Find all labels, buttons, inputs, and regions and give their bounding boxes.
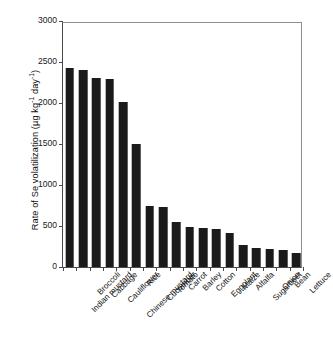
x-axis-label: Rice <box>145 270 163 288</box>
bar <box>159 207 168 267</box>
y-axis-title-prefix: Rate of Se volatilization (µg kg <box>30 103 40 230</box>
y-axis-tick-label: 1500 <box>38 138 57 149</box>
bar <box>279 250 288 267</box>
bar-slot <box>276 23 289 267</box>
bar-slot <box>290 23 303 267</box>
bar <box>65 68 74 267</box>
bar-slot <box>76 23 89 267</box>
x-axis-label: Lettuce <box>308 270 333 295</box>
bar-slot <box>130 23 143 267</box>
bar-slot <box>210 23 223 267</box>
y-axis-title-middle: day <box>30 79 40 97</box>
bar <box>252 248 261 267</box>
bar <box>292 253 301 267</box>
bar <box>185 227 194 267</box>
bar <box>225 233 234 267</box>
bar-slot <box>90 23 103 267</box>
y-axis-title-sup1: -1 <box>28 97 35 103</box>
bar <box>92 78 101 267</box>
bar <box>265 249 274 267</box>
bar-slot <box>116 23 129 267</box>
bar-slot <box>156 23 169 267</box>
bar <box>105 79 114 267</box>
y-axis-title-sup2: -1 <box>28 73 35 79</box>
bar <box>145 206 154 268</box>
bar <box>212 229 221 267</box>
bar <box>172 222 181 267</box>
bar-slot <box>63 23 76 267</box>
bar-slot <box>250 23 263 267</box>
bar <box>239 245 248 267</box>
y-axis-tick-label: 0 <box>52 261 57 272</box>
x-axis-labels: Indian mustardBroccoliCabbageCauliflower… <box>62 270 302 344</box>
plot-area: 050010001500200025003000 <box>62 22 302 268</box>
bar <box>132 144 141 267</box>
y-axis-tick-label: 2500 <box>38 56 57 67</box>
y-axis-tick-mark <box>59 21 63 22</box>
bar <box>199 228 208 267</box>
bar-slot <box>170 23 183 267</box>
bar <box>119 102 128 267</box>
bar-slot <box>103 23 116 267</box>
bar-slot <box>223 23 236 267</box>
y-axis-tick-label: 500 <box>43 220 57 231</box>
y-axis-title-suffix: ) <box>30 70 40 73</box>
bar <box>79 70 88 267</box>
bar-slot <box>236 23 249 267</box>
bar-series <box>63 23 301 267</box>
y-axis-tick-label: 2000 <box>38 97 57 108</box>
bar-slot <box>196 23 209 267</box>
y-axis-tick-label: 1000 <box>38 179 57 190</box>
bar-slot <box>143 23 156 267</box>
bar-slot <box>263 23 276 267</box>
bar-slot <box>183 23 196 267</box>
y-axis-tick-label: 3000 <box>38 15 57 26</box>
